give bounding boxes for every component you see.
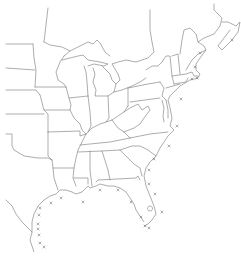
border-illinois-indiana [88,96,91,132]
coastal-markers [37,39,234,249]
border-ct-ri [174,78,188,84]
x-marker-icon[interactable] [180,98,183,101]
atlantic-coast [144,50,206,226]
lake-ontario-shore [146,62,162,70]
border-tn-south [78,150,120,152]
lake-okeechobee [148,206,153,211]
border-minnesota-north [44,42,70,56]
x-marker-icon[interactable] [37,223,40,226]
x-marker-icon[interactable] [38,234,41,237]
border-ok-tx [6,134,52,160]
lower-michigan [93,66,116,96]
lake-michigan-west [84,66,88,96]
x-marker-icon[interactable] [148,169,151,172]
lake-superior-shore [70,40,110,56]
nova-scotia-outline [218,22,240,50]
border-arkansas-west [48,132,52,160]
border-ky-tn [80,138,130,145]
long-island [166,84,180,88]
x-marker-icon[interactable] [130,201,133,204]
border-al-ga [102,151,110,180]
border-fl-al-ga [96,176,140,182]
border-pa-md [130,98,160,102]
canada-border-maine [198,14,222,42]
map-canvas [0,0,241,257]
x-marker-icon[interactable] [43,246,46,249]
x-marker-icon[interactable] [60,197,63,200]
x-marker-icon[interactable] [82,201,85,204]
border-nc-va [130,132,168,138]
lake-erie-shore [114,78,146,92]
border-ne-kansas [6,90,40,95]
ohio-river [86,106,128,134]
delmarva [166,100,168,118]
border-minnesota-wisconsin [56,56,66,87]
x-marker-icon[interactable] [148,183,151,186]
border-ms-al [90,151,92,186]
border-nh-maine [180,28,206,70]
border-iowa-missouri [40,87,71,110]
border-pa-ny [128,82,160,88]
border-illinois-missouri [70,110,86,134]
border-ny-nj [160,82,166,100]
chesapeake-bay [162,100,164,122]
border-ms-la-south [74,178,88,184]
border-nc-sc [120,146,156,156]
eastern-us-outline-map [0,0,241,257]
border-sd-nebraska [6,68,35,70]
border-indiana-ohio [106,96,109,122]
border-ky-va [112,120,130,138]
x-marker-icon[interactable] [38,214,41,217]
border-ma [172,72,198,76]
border-missouri-kansas [44,110,48,132]
upper-peninsula [62,55,108,66]
x-marker-icon[interactable] [117,189,120,192]
border-vt-nh [172,54,180,74]
x-marker-icon[interactable] [37,228,40,231]
border-tx-mexico [6,200,32,232]
ontario-border [112,10,154,84]
texas-coast [30,196,50,252]
x-marker-icon[interactable] [168,145,171,148]
border-ny-east [162,56,174,84]
border-missouri-arkansas [48,131,86,136]
x-marker-icon[interactable] [99,189,102,192]
x-marker-icon[interactable] [199,52,202,55]
border-sc-ga [120,150,142,176]
border-nd-minnesota [33,44,36,87]
x-marker-icon[interactable] [176,125,179,128]
florida-gulf-coast [96,184,144,222]
gulf-st-lawrence [214,4,218,14]
border-wv [124,104,150,132]
border-wisconsin-illinois [69,96,88,98]
border-tx-la [52,160,58,190]
border-dakotas-canada [44,8,48,42]
x-marker-icon[interactable] [148,227,151,230]
x-marker-icon[interactable] [154,193,157,196]
x-marker-icon[interactable] [231,39,234,42]
x-marker-icon[interactable] [161,211,164,214]
x-marker-icon[interactable] [39,242,42,245]
state-borders [6,4,240,190]
x-marker-icon[interactable] [50,202,53,205]
x-marker-icon[interactable] [39,207,42,210]
